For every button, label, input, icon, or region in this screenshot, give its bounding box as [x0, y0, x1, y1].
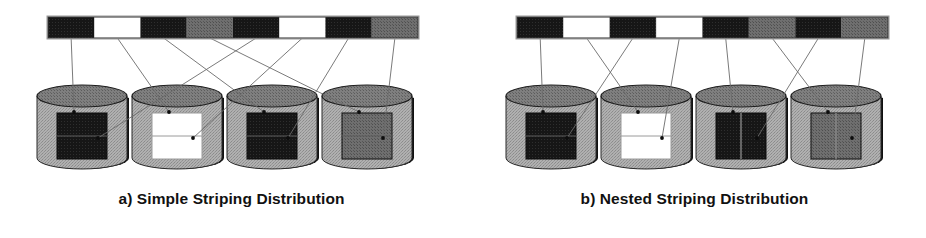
connector-arrowhead [167, 110, 171, 114]
connector-arrowhead [755, 136, 759, 140]
disk-4 [322, 85, 414, 169]
stripe-segment [610, 17, 656, 38]
stripe-segment [187, 17, 233, 38]
disk-4 [791, 85, 883, 169]
disk-3 [696, 85, 788, 169]
stripe-segment [141, 17, 187, 38]
connector-arrowhead [565, 136, 569, 140]
disk-top-surface [37, 85, 127, 107]
connector-arrowhead [541, 110, 545, 114]
striping-distribution-figure: a) Simple Striping Distribution b) Neste… [0, 0, 926, 238]
disk-top-surface [696, 85, 786, 107]
panel-b [506, 16, 889, 169]
stripe-segment [517, 17, 563, 38]
connector-arrowhead [286, 136, 290, 140]
connector-arrowhead [381, 136, 385, 140]
disk-top-surface [601, 85, 691, 107]
stripe-segment [842, 17, 888, 38]
connector-arrowhead [636, 110, 640, 114]
connector-arrowhead [191, 136, 195, 140]
stripe-segment [48, 17, 94, 38]
disk-3 [227, 85, 319, 169]
connector-arrowhead [660, 136, 664, 140]
connector-arrowhead [850, 136, 854, 140]
stripe-segment [279, 17, 325, 38]
disk-2 [132, 85, 224, 169]
panel-a-caption: a) Simple Striping Distribution [0, 190, 463, 208]
panel-b-caption: b) Nested Striping Distribution [463, 190, 926, 208]
stripe-segment [94, 17, 140, 38]
stripe-segment [372, 17, 418, 38]
stripe-segment [326, 17, 372, 38]
disk-1 [506, 85, 598, 169]
logical-data-stripe-bar [47, 16, 419, 39]
logical-data-stripe-bar [516, 16, 889, 39]
connector-arrowhead [262, 110, 266, 114]
disk-top-surface [791, 85, 881, 107]
connector-arrowhead [357, 110, 361, 114]
stripe-segment [656, 17, 702, 38]
connector-arrowhead [826, 110, 830, 114]
disk-top-surface [506, 85, 596, 107]
stripe-segment [703, 17, 749, 38]
connector-arrowhead [72, 110, 76, 114]
stripe-segment [795, 17, 841, 38]
stripe-segment [749, 17, 795, 38]
stripe-segment [233, 17, 279, 38]
disk-top-surface [227, 85, 317, 107]
connector-arrowhead [731, 110, 735, 114]
disk-2 [601, 85, 693, 169]
connector-arrowhead [96, 136, 100, 140]
disk-top-surface [322, 85, 412, 107]
stripe-segment [563, 17, 609, 38]
